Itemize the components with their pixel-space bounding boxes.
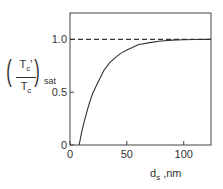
data-series: [70, 39, 211, 145]
x-tick-label: 50: [121, 148, 133, 160]
y-label-subscript: sat: [44, 76, 56, 86]
left-paren: (: [6, 54, 12, 88]
plot-frame: [70, 13, 211, 145]
x-tick-label: 0: [67, 148, 73, 160]
right-paren: ): [34, 54, 40, 88]
y-tick-label: 0: [61, 139, 67, 151]
fraction-bar: [16, 77, 36, 78]
x-axis-label: ds ,nm: [150, 167, 182, 182]
ratio-curve: [79, 39, 211, 145]
plot-border: [70, 13, 211, 145]
y-tick-label: 1.0: [52, 33, 67, 45]
y-axis-label: ( Tc' Tc ) sat: [6, 56, 62, 90]
x-tick-label: 100: [175, 148, 193, 160]
